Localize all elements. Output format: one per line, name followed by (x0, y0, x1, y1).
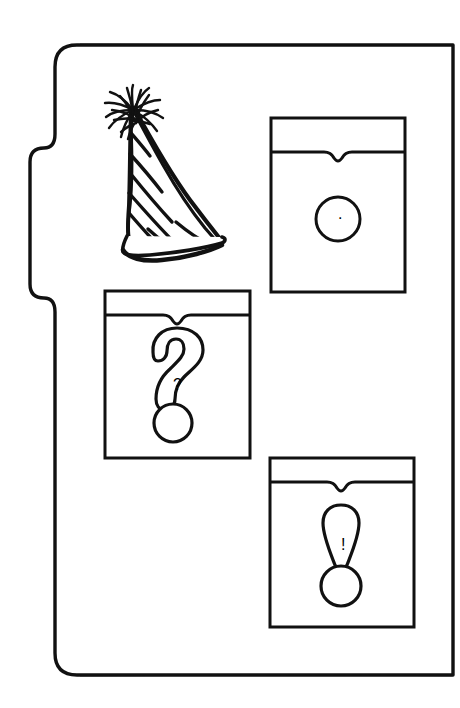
card-exclamation-symbol: ! (341, 536, 345, 553)
card-exclamation[interactable]: ! (270, 458, 414, 627)
card-period[interactable]: . (271, 118, 405, 292)
card-question[interactable]: ? (105, 291, 250, 458)
line-drawing-artboard: . ? ! (0, 0, 460, 708)
card-period-symbol: . (338, 205, 342, 222)
screenshot-canvas: Party hat and three punctuation cards A … (0, 0, 460, 708)
exclamation-mark-dot (321, 566, 361, 606)
question-mark-dot (154, 404, 192, 442)
card-question-symbol: ? (173, 376, 182, 393)
